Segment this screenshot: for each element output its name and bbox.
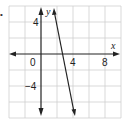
x-axis-label: x [110,40,116,51]
coordinate-graph: y x 0 4 8 4 −4 [0,0,124,121]
x-axis-right-arrow-icon [113,52,120,57]
x-tick-4: 4 [70,57,76,68]
y-axis-label: y [45,6,51,17]
y-axis-top-arrow-icon [39,7,44,15]
y-tick-4: 4 [33,17,39,28]
line-bottom-arrow-icon [72,109,77,116]
y-axis-bottom-arrow-icon [39,108,44,116]
x-axis-left-arrow-icon [9,52,16,57]
line-top-arrow-icon [52,8,57,15]
x-tick-8: 8 [102,57,108,68]
y-tick-neg4: −4 [25,81,37,92]
x-tick-0: 0 [30,57,36,68]
